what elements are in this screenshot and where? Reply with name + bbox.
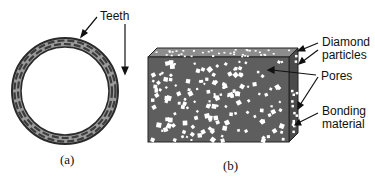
diamond-particles-line2: particles (322, 49, 370, 62)
bonding-material-line2: material (322, 118, 366, 131)
diamond-particles-label: Diamond particles (322, 36, 370, 62)
caption-a: (a) (60, 152, 74, 168)
pores-label: Pores (321, 70, 352, 83)
teeth-label: Teeth (100, 10, 129, 23)
bonding-material-label: Bonding material (322, 105, 366, 131)
caption-b: (b) (223, 158, 238, 174)
segment-block (148, 48, 298, 143)
diagram-canvas (0, 0, 375, 181)
ring-saw-blade (12, 38, 118, 144)
